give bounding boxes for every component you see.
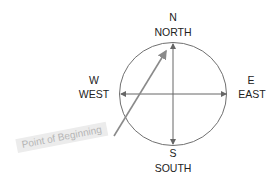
west-abbr: W — [84, 75, 104, 86]
south-label: SOUTH — [148, 163, 198, 174]
north-abbr: N — [163, 12, 183, 23]
east-label: EAST — [234, 89, 270, 100]
north-label: NORTH — [148, 27, 198, 38]
west-label: WEST — [76, 89, 112, 100]
east-abbr: E — [241, 75, 261, 86]
south-abbr: S — [163, 148, 183, 159]
